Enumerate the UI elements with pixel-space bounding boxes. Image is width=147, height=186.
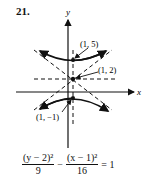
y-axis-label: y bbox=[65, 7, 70, 17]
point-label-center: (1, 2) bbox=[98, 65, 117, 75]
fraction-1: (y − 2)² 9 bbox=[22, 152, 54, 177]
x-axis-label: x bbox=[136, 87, 141, 97]
point-label-top: (1, 5) bbox=[80, 39, 99, 49]
center-point bbox=[71, 77, 75, 81]
vertex-top bbox=[71, 58, 75, 62]
lower-branch bbox=[40, 99, 108, 111]
vertex-bottom bbox=[71, 96, 75, 100]
equation: (y − 2)² 9 − (x − 1)² 16 = 1 bbox=[22, 152, 114, 177]
fraction-2: (x − 1)² 16 bbox=[66, 152, 98, 177]
point-label-bottom: (1, −1) bbox=[36, 112, 59, 122]
